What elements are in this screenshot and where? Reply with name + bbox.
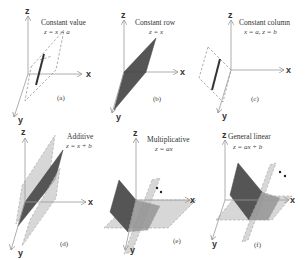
panel-title: Constant row — [135, 18, 176, 27]
y-axis — [218, 70, 231, 113]
z-axis-label: z — [133, 128, 138, 138]
y-axis-label: y — [130, 245, 135, 255]
z-axis-label: z — [222, 130, 227, 140]
x-axis-label: x — [88, 197, 93, 207]
panel-b: z x y Constant row z = x (b) — [112, 10, 185, 122]
panel-equation: x = a, z = b — [243, 28, 277, 36]
panel-caption: (f) — [254, 241, 262, 249]
y-axis-label: y — [116, 112, 121, 122]
panel-title: Multiplicative — [147, 135, 190, 144]
panel-caption: (e) — [173, 237, 181, 245]
y-axis-label: y — [18, 248, 23, 258]
panel-title: Additive — [67, 132, 94, 141]
y-axis-label: y — [212, 239, 217, 249]
continuation-dot — [279, 171, 281, 173]
panel-title: Constant column — [239, 18, 290, 27]
z-axis-label: z — [121, 10, 126, 20]
panel-equation: z = x + b — [65, 142, 92, 150]
continuation-dot — [156, 187, 158, 189]
panel-f: z x y General linear z = ax + b (f) — [212, 130, 295, 249]
x-axis-label: x — [290, 195, 295, 205]
panel-equation: z = x — [148, 28, 164, 36]
x-axis-label: x — [180, 67, 185, 77]
panel-caption: (a) — [57, 94, 65, 102]
panel-caption: (c) — [251, 95, 259, 103]
panel-title: Constant value — [41, 18, 86, 27]
constant-value-line — [36, 54, 44, 85]
panel-caption: (b) — [153, 95, 162, 103]
panel-caption: (d) — [60, 240, 69, 248]
panel-equation: z = ax + b — [232, 143, 263, 151]
dark-plane — [114, 38, 156, 110]
z-axis-label: z — [228, 10, 233, 20]
panel-c: z x y Constant column x = a, z = b (c) — [199, 10, 291, 121]
panel-a: z x y Constant value z = x = a (a) — [14, 6, 91, 125]
z-axis-label: z — [25, 6, 30, 16]
panel-e: z x y Multiplicative z = ax (e) — [104, 128, 196, 255]
x-axis-label: x — [86, 69, 91, 79]
continuation-dot — [160, 191, 162, 193]
continuation-dot — [284, 175, 286, 177]
x-axis-label: x — [286, 65, 291, 75]
panel-equation: z = x = a — [43, 28, 70, 36]
panel-title: General linear — [228, 132, 271, 141]
panel-d: z x y Additive z = x + b (d) — [11, 127, 94, 258]
figure-canvas: z x y Constant value z = x = a (a) z x y… — [0, 0, 306, 260]
z-axis-label: z — [21, 127, 26, 137]
dashed-plane — [25, 30, 64, 101]
x-axis-label: x — [190, 195, 195, 205]
y-axis-label: y — [222, 111, 227, 121]
constant-column-line — [212, 59, 220, 90]
y-axis-label: y — [18, 115, 23, 125]
panel-equation: z = ax — [154, 145, 173, 153]
